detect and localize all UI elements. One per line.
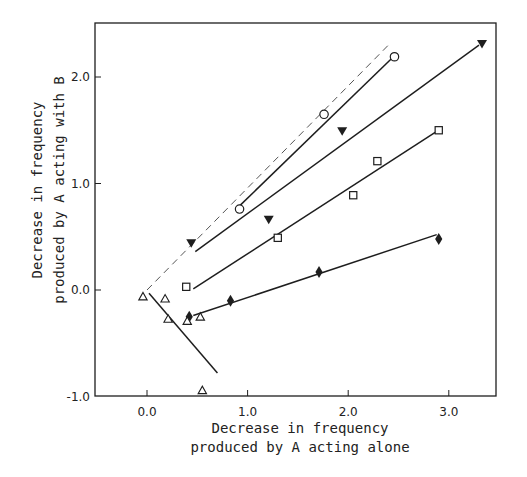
square-marker xyxy=(350,192,357,199)
identity-reference-line xyxy=(147,45,388,290)
triangle-marker xyxy=(198,386,206,394)
y-axis-title: Decrease in frequency xyxy=(29,101,45,278)
circle-marker xyxy=(320,110,328,118)
inverted-triangle-marker xyxy=(186,239,196,248)
square-marker xyxy=(274,234,281,241)
fit-line-circle-open xyxy=(240,56,395,206)
x-tick-label: 0.0 xyxy=(137,405,156,419)
triangle-marker xyxy=(161,295,169,303)
diamond-marker xyxy=(227,295,234,307)
x-tick-label: 3.0 xyxy=(439,405,458,419)
circle-marker xyxy=(235,205,243,213)
inverted-triangle-marker xyxy=(337,127,347,136)
y-tick-label: 0.0 xyxy=(71,283,90,297)
circle-marker xyxy=(390,53,398,61)
plot-border xyxy=(95,23,496,396)
y-axis-title: produced by A acting with B xyxy=(51,76,67,304)
dashed-identity-line xyxy=(147,45,388,290)
x-axis-title: produced by A acting alone xyxy=(190,439,409,455)
square-marker xyxy=(183,283,190,290)
x-axis-title: Decrease in frequency xyxy=(211,420,388,436)
data-points xyxy=(139,40,487,394)
inverted-triangle-marker xyxy=(264,216,274,225)
y-tick-label: -1.0 xyxy=(67,390,90,404)
plot-frame xyxy=(95,23,496,396)
diamond-marker xyxy=(315,266,322,278)
square-marker xyxy=(374,158,381,165)
x-tick-label: 1.0 xyxy=(238,405,257,419)
y-tick-label: 1.0 xyxy=(71,177,90,191)
triangle-marker xyxy=(139,292,147,300)
y-tick-label: 2.0 xyxy=(71,70,90,84)
fit-lines xyxy=(149,45,479,373)
fit-line-triangle-up-open xyxy=(149,293,217,373)
fit-line-square-open xyxy=(193,131,436,289)
fit-line-triangle-down-filled xyxy=(195,45,479,252)
x-tick-label: 2.0 xyxy=(339,405,358,419)
square-marker xyxy=(435,127,442,134)
inverted-triangle-marker xyxy=(477,40,487,49)
chart: 0.01.02.03.0-1.00.01.02.0 Decrease in fr… xyxy=(0,0,527,477)
